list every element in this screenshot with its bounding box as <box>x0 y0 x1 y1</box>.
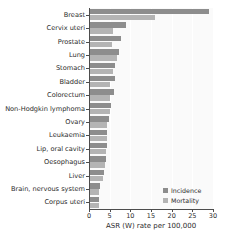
bar-incidence-9 <box>89 130 107 135</box>
legend-label-mortality: Mortality <box>171 197 199 205</box>
y-axis-label-9: Leukaemia <box>49 131 85 139</box>
y-axis-label-5: Bladder <box>59 78 85 86</box>
gridline-20 <box>172 8 173 209</box>
y-tick-mark-4 <box>86 68 89 69</box>
y-tick-mark-12 <box>86 176 89 177</box>
bar-mortality-13 <box>89 189 99 194</box>
x-tick-label-5: 5 <box>108 212 112 220</box>
y-tick-mark-14 <box>86 202 89 203</box>
bar-incidence-13 <box>89 183 100 188</box>
chart-legend: Incidence Mortality <box>163 186 201 206</box>
x-tick-label-0: 0 <box>87 212 91 220</box>
bar-mortality-5 <box>89 82 110 87</box>
bar-incidence-4 <box>89 63 115 68</box>
bar-mortality-2 <box>89 42 112 47</box>
y-axis-label-0: Breast <box>64 11 85 19</box>
y-axis-label-13: Brain, nervous system <box>11 185 85 193</box>
y-axis-label-10: Lip, oral cavity <box>37 145 85 153</box>
y-tick-mark-1 <box>86 28 89 29</box>
bar-incidence-7 <box>89 103 111 108</box>
legend-item-mortality: Mortality <box>163 196 201 205</box>
y-axis-label-1: Cervix uteri <box>47 24 85 32</box>
y-axis-label-14: Corpus uteri <box>44 198 85 206</box>
legend-swatch-mortality-icon <box>163 198 168 203</box>
legend-label-incidence: Incidence <box>171 187 201 195</box>
chart-figure: 051015202530 BreastCervix uteriProstateL… <box>0 0 227 245</box>
y-tick-mark-10 <box>86 149 89 150</box>
y-axis-label-6: Colorectum <box>47 91 85 99</box>
bar-incidence-10 <box>89 143 107 148</box>
bar-mortality-12 <box>89 176 103 181</box>
x-tick-label-15: 15 <box>147 212 155 220</box>
y-tick-mark-9 <box>86 135 89 136</box>
y-tick-mark-8 <box>86 122 89 123</box>
bar-mortality-1 <box>89 28 113 33</box>
y-axis-label-8: Ovary <box>65 118 85 126</box>
bar-incidence-12 <box>89 170 104 175</box>
gridline-10 <box>130 8 131 209</box>
bar-mortality-4 <box>89 69 113 74</box>
x-tick-label-20: 20 <box>168 212 176 220</box>
bar-incidence-3 <box>89 49 119 54</box>
bar-mortality-6 <box>89 95 110 100</box>
x-tick-label-25: 25 <box>188 212 196 220</box>
y-axis-label-4: Stomach <box>56 64 85 72</box>
bar-mortality-7 <box>89 109 110 114</box>
bar-incidence-6 <box>89 89 114 94</box>
y-axis-label-2: Prostate <box>58 38 85 46</box>
bar-incidence-14 <box>89 197 99 202</box>
y-axis-label-3: Lung <box>69 51 85 59</box>
bar-mortality-8 <box>89 122 107 127</box>
bar-incidence-0 <box>89 9 209 14</box>
bar-incidence-11 <box>89 156 106 161</box>
x-axis-title: ASR (W) rate per 100,000 <box>89 222 213 231</box>
bar-incidence-8 <box>89 116 109 121</box>
bar-mortality-10 <box>89 149 106 154</box>
bar-mortality-14 <box>89 203 99 208</box>
y-tick-mark-11 <box>86 162 89 163</box>
y-tick-mark-2 <box>86 42 89 43</box>
bar-incidence-2 <box>89 36 121 41</box>
y-axis-label-7: Non-Hodgkin lymphoma <box>5 105 85 113</box>
bar-mortality-0 <box>89 15 155 20</box>
bar-mortality-11 <box>89 162 105 167</box>
y-tick-mark-0 <box>86 15 89 16</box>
bar-incidence-1 <box>89 22 126 27</box>
y-tick-mark-3 <box>86 55 89 56</box>
x-tick-label-10: 10 <box>126 212 134 220</box>
legend-item-incidence: Incidence <box>163 186 201 195</box>
y-tick-mark-6 <box>86 95 89 96</box>
gridline-15 <box>151 8 152 209</box>
gridline-25 <box>192 8 193 209</box>
legend-swatch-incidence-icon <box>163 188 168 193</box>
x-tick-label-30: 30 <box>209 212 217 220</box>
gridline-30 <box>213 8 214 209</box>
bar-mortality-3 <box>89 55 117 60</box>
y-axis-line <box>89 8 90 209</box>
y-tick-mark-7 <box>86 109 89 110</box>
y-tick-mark-5 <box>86 82 89 83</box>
y-tick-mark-13 <box>86 189 89 190</box>
bar-incidence-5 <box>89 76 115 81</box>
bar-mortality-9 <box>89 136 107 141</box>
y-axis-label-12: Liver <box>69 172 85 180</box>
y-axis-label-11: Oesophagus <box>44 158 85 166</box>
